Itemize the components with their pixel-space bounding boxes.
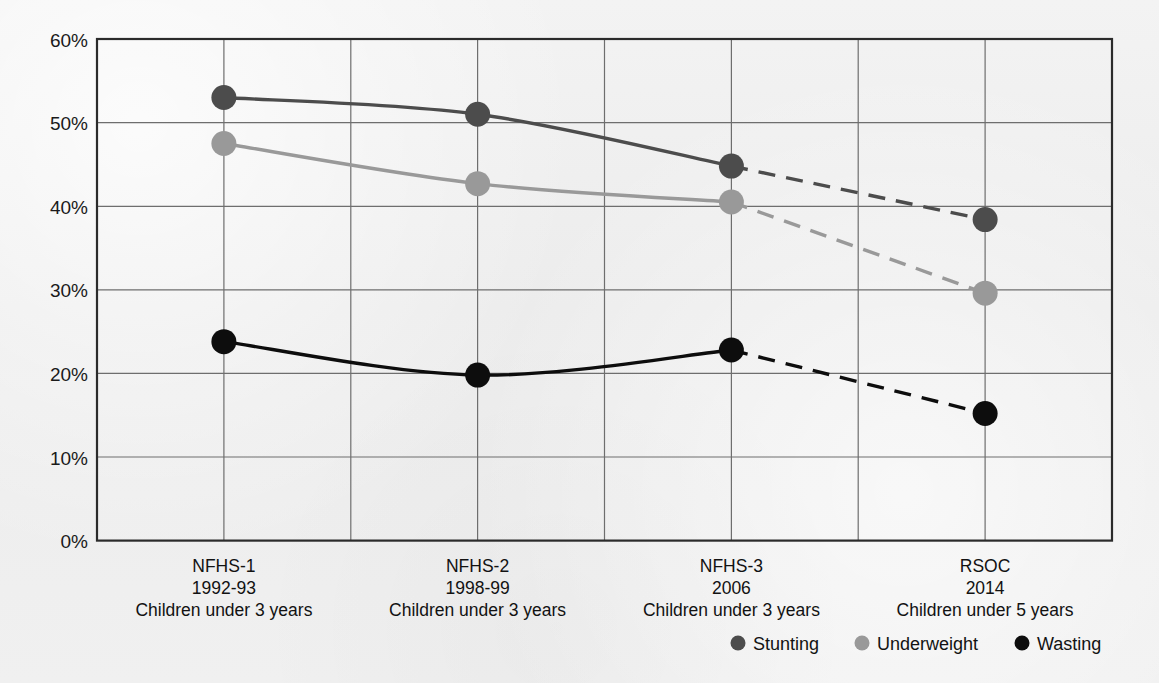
category-survey-0: NFHS-1 [192,556,255,576]
x-axis-category-labels: NFHS-1 1992-93 Children under 3 years NF… [135,556,1073,620]
y-tick-label-30: 30% [50,280,88,301]
legend-swatch-underweight [855,636,870,651]
y-axis-tick-labels: 60% 50% 40% 30% 20% 10% 0% [50,30,88,553]
legend-label-underweight: Underweight [877,634,978,654]
y-tick-label-10: 10% [50,448,88,469]
y-tick-label-0: 0% [61,531,89,552]
grid-layer [97,39,1112,541]
data-point-underweight-rsoc[interactable] [973,281,998,306]
data-point-stunting-rsoc[interactable] [973,207,998,232]
category-period-0: 1992-93 [192,578,256,598]
category-survey-1: NFHS-2 [446,556,509,576]
data-point-underweight-nfhs-3[interactable] [719,190,744,215]
data-point-stunting-nfhs-1[interactable] [211,85,236,110]
legend-swatch-stunting [731,636,746,651]
legend-swatch-wasting [1015,636,1030,651]
data-point-stunting-nfhs-2[interactable] [465,102,490,127]
category-population-2: Children under 3 years [643,600,820,620]
legend-label-stunting: Stunting [753,634,819,654]
category-label-group-1: NFHS-2 1998-99 Children under 3 years [389,556,566,620]
y-tick-label-40: 40% [50,197,88,218]
y-tick-label-20: 20% [50,364,88,385]
category-label-group-0: NFHS-1 1992-93 Children under 3 years [135,556,312,620]
data-point-underweight-nfhs-1[interactable] [211,131,236,156]
category-population-0: Children under 3 years [135,600,312,620]
category-label-group-2: NFHS-3 2006 Children under 3 years [643,556,820,620]
category-period-2: 2006 [712,578,751,598]
category-population-1: Children under 3 years [389,600,566,620]
category-period-3: 2014 [966,578,1005,598]
y-tick-label-60: 60% [50,30,88,51]
legend-item-stunting[interactable]: Stunting [731,634,820,654]
data-point-wasting-nfhs-3[interactable] [719,337,744,362]
nutrition-trend-line-chart: 60% 50% 40% 30% 20% 10% 0% NFHS-1 1992-9… [0,0,1159,683]
category-population-3: Children under 5 years [897,600,1074,620]
chart-page: 60% 50% 40% 30% 20% 10% 0% NFHS-1 1992-9… [0,0,1159,683]
data-point-wasting-rsoc[interactable] [973,401,998,426]
legend-item-underweight[interactable]: Underweight [855,634,979,654]
legend-item-wasting[interactable]: Wasting [1015,634,1102,654]
chart-legend: Stunting Underweight Wasting [731,634,1102,654]
data-point-wasting-nfhs-2[interactable] [465,363,490,388]
data-point-underweight-nfhs-2[interactable] [465,171,490,196]
data-point-stunting-nfhs-3[interactable] [719,154,744,179]
category-survey-3: RSOC [960,556,1011,576]
legend-label-wasting: Wasting [1037,634,1101,654]
category-label-group-3: RSOC 2014 Children under 5 years [897,556,1074,620]
data-point-wasting-nfhs-1[interactable] [211,329,236,354]
y-tick-label-50: 50% [50,113,88,134]
category-period-1: 1998-99 [445,578,509,598]
category-survey-2: NFHS-3 [700,556,763,576]
